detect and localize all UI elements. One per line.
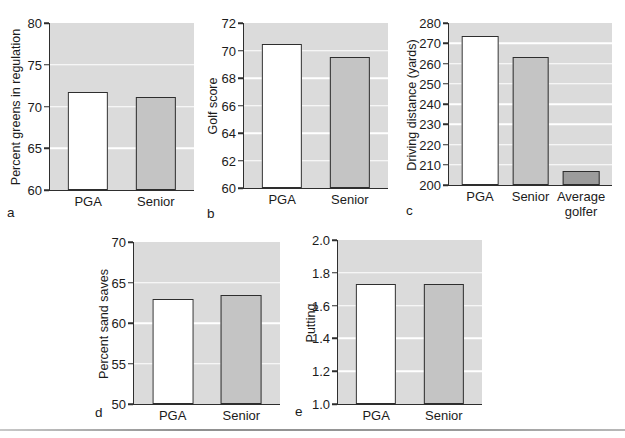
y-tick-mark (443, 164, 448, 166)
chart-panel-d-sand-saves: Percent sand saves 7065605550PGASenior d (133, 242, 280, 405)
plot-area: 72706866646260PGASenior (243, 23, 388, 189)
plot-area: 8075706560PGASenior (49, 23, 194, 191)
y-axis-title: Driving distance (yards) (405, 39, 419, 170)
y-tick-mark (44, 148, 49, 150)
x-axis-label: Average golfer (557, 190, 605, 220)
x-axis-label: PGA (362, 409, 389, 424)
y-tick-label: 70 (112, 235, 126, 250)
bar-pga (262, 44, 302, 188)
y-tick-label: 75 (28, 57, 42, 72)
y-tick-label: 68 (222, 71, 236, 86)
gridline (50, 64, 194, 66)
y-tick-mark (443, 83, 448, 85)
bar-senior (136, 97, 176, 190)
x-axis-label: PGA (74, 195, 101, 210)
y-tick-label: 70 (222, 43, 236, 58)
chart-panel-a-greens-in-regulation: Percent greens in regulation 8075706560P… (49, 23, 194, 191)
gridline (338, 272, 482, 274)
y-tick-label: 2.0 (312, 233, 330, 248)
x-axis-label: Senior (331, 193, 369, 208)
y-tick-mark (238, 22, 243, 24)
y-tick-label: 62 (222, 153, 236, 168)
plot-area: 7065605550PGASenior (133, 242, 280, 405)
y-tick-label: 66 (222, 98, 236, 113)
plot-area: 2.01.81.61.41.21.0PGASenior (337, 240, 482, 405)
y-tick-label: 1.0 (312, 397, 330, 412)
y-tick-mark (44, 189, 49, 191)
y-tick-label: 60 (222, 181, 236, 196)
bar-pga (68, 92, 108, 190)
y-tick-mark (238, 160, 243, 162)
y-tick-label: 1.8 (312, 265, 330, 280)
x-axis-label: Senior (223, 409, 261, 424)
bar-pga (152, 299, 193, 404)
y-tick-mark (44, 106, 49, 108)
y-tick-mark (238, 50, 243, 52)
y-tick-label: 70 (28, 99, 42, 114)
y-tick-mark (332, 403, 337, 405)
y-tick-mark (332, 338, 337, 340)
y-tick-mark (443, 144, 448, 146)
y-tick-label: 250 (419, 76, 441, 91)
y-axis-title: Percent greens in regulation (9, 29, 23, 185)
y-tick-label: 240 (419, 97, 441, 112)
y-tick-mark (332, 305, 337, 307)
y-tick-mark (128, 241, 133, 243)
y-tick-mark (128, 282, 133, 284)
y-tick-label: 1.2 (312, 364, 330, 379)
plot-area: 280270260250240230220210200PGASeniorAver… (448, 23, 612, 186)
y-tick-label: 260 (419, 56, 441, 71)
y-tick-label: 1.6 (312, 298, 330, 313)
bar-senior (512, 57, 549, 185)
y-axis-title: Golf score (206, 78, 220, 135)
y-tick-mark (443, 184, 448, 186)
y-tick-label: 55 (112, 356, 126, 371)
y-tick-mark (443, 43, 448, 45)
bar-senior (424, 284, 464, 404)
y-tick-label: 64 (222, 126, 236, 141)
y-tick-mark (238, 105, 243, 107)
divider-rule (0, 429, 625, 431)
y-tick-mark (332, 370, 337, 372)
gridline (134, 282, 280, 284)
chart-panel-c-driving-distance: Driving distance (yards) 280270260250240… (448, 23, 612, 186)
chart-panel-b-golf-score: Golf score 72706866646260PGASenior b (243, 23, 388, 189)
y-tick-mark (128, 363, 133, 365)
y-tick-label: 60 (28, 183, 42, 198)
y-tick-mark (443, 63, 448, 65)
y-tick-mark (238, 132, 243, 134)
panel-label: b (207, 206, 215, 221)
y-tick-label: 210 (419, 157, 441, 172)
y-tick-label: 270 (419, 36, 441, 51)
y-tick-label: 220 (419, 137, 441, 152)
y-tick-mark (443, 22, 448, 24)
panel-label: d (95, 405, 103, 420)
bar-senior (330, 57, 370, 188)
y-tick-mark (128, 403, 133, 405)
chart-panel-e-putting: Putting 2.01.81.61.41.21.0PGASenior e (337, 240, 482, 405)
y-tick-mark (128, 322, 133, 324)
y-tick-label: 1.4 (312, 331, 330, 346)
y-tick-label: 200 (419, 178, 441, 193)
bar-average-golfer (563, 171, 600, 185)
bar-senior (221, 295, 262, 404)
x-axis-label: PGA (159, 409, 186, 424)
y-tick-label: 230 (419, 117, 441, 132)
y-tick-mark (332, 272, 337, 274)
panel-label: c (406, 203, 413, 218)
y-tick-mark (238, 77, 243, 79)
y-tick-label: 50 (112, 397, 126, 412)
y-tick-mark (443, 103, 448, 105)
y-tick-label: 280 (419, 16, 441, 31)
y-tick-label: 72 (222, 16, 236, 31)
y-tick-mark (44, 64, 49, 66)
y-tick-label: 65 (28, 141, 42, 156)
y-axis-title: Percent sand saves (97, 269, 111, 379)
y-tick-label: 65 (112, 275, 126, 290)
figure-golf-stats-panels: Percent greens in regulation 8075706560P… (0, 0, 625, 438)
panel-label: e (295, 404, 303, 419)
x-axis-label: Senior (137, 195, 175, 210)
x-axis-label: Senior (425, 409, 463, 424)
bar-pga (462, 36, 499, 185)
panel-label: a (7, 205, 15, 220)
